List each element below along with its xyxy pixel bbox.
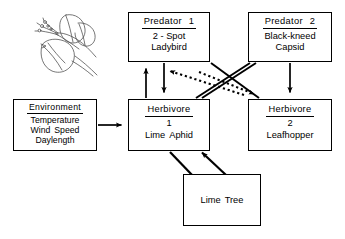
lime-tree-label-b: Tree	[225, 195, 244, 205]
environment-header: Environment	[14, 102, 96, 114]
herbivore-1-species-b: Aphid	[169, 130, 193, 140]
node-herbivore-2[interactable]: Herbivore 2 Leafhopper	[248, 99, 332, 151]
diagram-canvas: Predator1 2 - Spot Ladybird Predator2 Bl…	[0, 0, 345, 239]
edge-herbivore1-to-predator2	[196, 63, 250, 98]
herbivore-2-number: 2	[249, 118, 331, 129]
herbivore-2-header: Herbivore	[249, 104, 331, 117]
predator-2-line3: Capsid	[249, 42, 331, 53]
lime-tree-label-a: Lime	[201, 195, 221, 205]
predator-1-line3: Ladybird	[129, 42, 209, 53]
edge-limetree-to-herbivore1	[202, 153, 226, 176]
predator-2-line2: Black-kneed	[249, 31, 331, 42]
environment-line-daylength: Daylength	[14, 135, 96, 145]
edge-herbivore2-to-predator1-feedback	[170, 71, 244, 95]
environment-wind: Wind	[31, 125, 51, 135]
predator-1-header-label: Predator	[144, 16, 182, 26]
node-environment[interactable]: Environment Temperature WindSpeed Daylen…	[13, 99, 97, 151]
environment-line-wind-speed: WindSpeed	[14, 125, 96, 135]
edge-predator1-to-herbivore2-feedback	[199, 72, 254, 94]
herbivore-1-header: Herbivore	[129, 104, 209, 117]
edge-herbivore2-to-predator1	[211, 63, 259, 98]
predator-1-header: Predator1	[129, 16, 209, 29]
herbivore-1-species: LimeAphid	[129, 130, 209, 141]
lime-tree-branch-sketch	[26, 9, 104, 83]
herbivore-1-header-label: Herbivore	[145, 104, 192, 117]
predator-2-header-label: Predator	[265, 16, 303, 26]
environment-header-label: Environment	[27, 102, 83, 114]
predator-2-header: Predator2	[249, 16, 331, 29]
herbivore-2-species: Leafhopper	[249, 130, 331, 141]
edge-herbivore1-to-limetree	[170, 152, 193, 176]
predator-2-header-number: 2	[310, 16, 315, 26]
node-predator-1[interactable]: Predator1 2 - Spot Ladybird	[128, 12, 210, 62]
node-predator-2[interactable]: Predator2 Black-kneed Capsid	[248, 12, 332, 62]
herbivore-2-header-label: Herbivore	[266, 104, 313, 117]
herbivore-1-species-a: Lime	[145, 130, 165, 140]
herbivore-1-number: 1	[129, 118, 209, 129]
lime-tree-label: LimeTree	[201, 195, 244, 206]
predator-1-header-number: 1	[189, 16, 194, 26]
environment-speed: Speed	[54, 125, 79, 135]
predator-1-line2: 2 - Spot	[129, 31, 209, 42]
node-lime-tree[interactable]: LimeTree	[183, 174, 261, 226]
edge-herbivore1-to-predator2-second	[202, 63, 256, 98]
node-herbivore-1[interactable]: Herbivore 1 LimeAphid	[128, 99, 210, 151]
environment-line-temperature: Temperature	[14, 115, 96, 125]
